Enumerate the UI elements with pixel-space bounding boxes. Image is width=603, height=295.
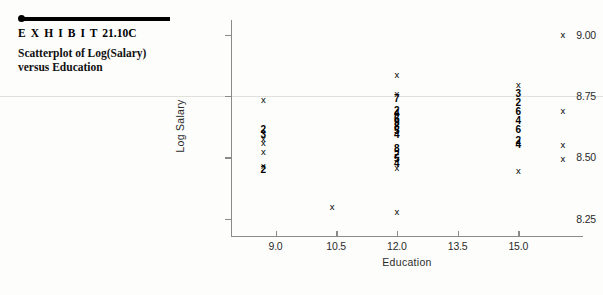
data-point-marker: x	[560, 155, 565, 165]
y-tick-mark	[225, 219, 232, 220]
y-tick-label: 9.00	[562, 29, 596, 41]
data-point-marker: x	[261, 95, 266, 105]
data-point-count-marker: 7	[394, 95, 400, 105]
exhibit-label: E X H I B I T	[18, 27, 98, 39]
x-tick-label: 9.0	[269, 240, 283, 252]
x-tick-label: 10.5	[326, 240, 346, 252]
data-point-marker: x	[560, 30, 565, 40]
data-point-marker: x	[261, 147, 266, 157]
data-point-count-marker: 4	[394, 131, 400, 141]
exhibit-title: E X H I B I T 21.10C	[18, 27, 170, 39]
y-tick-mark	[225, 35, 232, 36]
data-point-marker: x	[330, 202, 335, 212]
data-point-marker: x	[395, 208, 400, 218]
exhibit-description: Scatterplot of Log(Salary) versus Educat…	[18, 47, 170, 74]
data-point-marker: x	[395, 164, 400, 174]
scatterplot: Log Salary Education 8.258.508.759.00 9.…	[186, 8, 596, 288]
exhibit-number: 21.10C	[102, 27, 136, 39]
data-point-marker: x	[560, 140, 565, 150]
x-tick-mark	[336, 231, 337, 237]
x-tick-mark	[518, 231, 519, 237]
y-tick-label: 8.50	[562, 151, 596, 163]
x-tick-label: 15.0	[508, 240, 528, 252]
data-point-count-marker: 6	[515, 125, 521, 135]
x-tick-mark	[276, 231, 277, 237]
data-point-count-marker: 4	[515, 140, 521, 150]
data-point-count-marker: 2	[261, 166, 267, 176]
data-point-marker: x	[395, 70, 400, 80]
y-axis-title: Log Salary	[174, 99, 186, 152]
data-point-marker: x	[516, 167, 521, 177]
x-axis-title: Education	[382, 256, 431, 268]
rule-bar	[24, 17, 170, 21]
y-tick-mark	[225, 157, 232, 158]
x-tick-label: 13.5	[448, 240, 468, 252]
y-tick-label: 8.75	[562, 90, 596, 102]
x-axis-line	[231, 236, 583, 237]
y-axis-line	[231, 20, 232, 236]
y-tick-mark	[225, 96, 232, 97]
x-tick-label: 12.0	[387, 240, 407, 252]
y-tick-label: 8.25	[562, 213, 596, 225]
exhibit-caption-block: E X H I B I T 21.10C Scatterplot of Log(…	[18, 14, 170, 74]
x-tick-mark	[458, 231, 459, 237]
x-tick-mark	[397, 231, 398, 237]
exhibit-page: E X H I B I T 21.10C Scatterplot of Log(…	[0, 0, 603, 295]
data-point-marker: x	[560, 106, 565, 116]
exhibit-rule	[18, 14, 170, 23]
